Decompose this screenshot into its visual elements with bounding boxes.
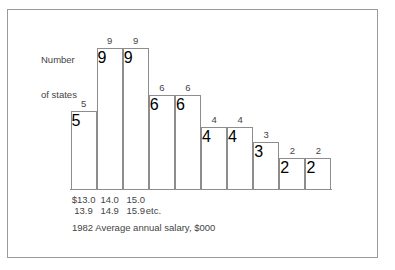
bar-value-label: 2 <box>299 145 337 156</box>
x-axis-baseline <box>70 189 332 190</box>
histogram-bar: 4 <box>201 127 227 190</box>
bar-value-label: 6 <box>169 82 207 93</box>
histogram-screenshot: Number of states 5996644322 5996644322 $… <box>0 0 395 270</box>
histogram-bar: 5 <box>71 111 97 190</box>
bar-value-label: 5 <box>65 98 103 109</box>
x-axis-etc-label: etc. <box>146 205 161 216</box>
bar-value-label: 4 <box>221 114 259 125</box>
y-axis-title: Number of states <box>41 31 77 123</box>
histogram-bar: 6 <box>149 95 175 190</box>
histogram-bar: 9 <box>97 48 123 190</box>
x-axis-caption: 1982 Average annual salary, $000 <box>72 222 215 233</box>
histogram-bar: 6 <box>175 95 201 190</box>
x-tick-label-upper: 15.0 <box>115 194 157 205</box>
y-axis-title-line-1: Number <box>41 54 77 66</box>
bar-value-label: 3 <box>247 129 285 140</box>
bar-value-label: 9 <box>117 35 155 46</box>
histogram-bar: 2 <box>305 158 331 190</box>
histogram-bar: 2 <box>279 158 305 190</box>
chart-plot-area: Number of states 5996644322 5996644322 $… <box>0 0 395 270</box>
histogram-bar: 9 <box>123 48 149 190</box>
